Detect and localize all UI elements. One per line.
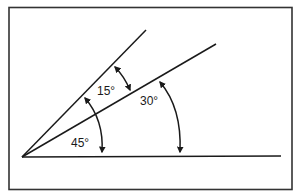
angle-diagram: 15° 30° 45° [0, 0, 300, 196]
ray-30-degree [22, 44, 216, 157]
baseline [22, 156, 281, 157]
arc-arrow-15 [115, 67, 130, 90]
label-15-degree: 15° [97, 84, 115, 98]
label-45-degree: 45° [71, 136, 89, 150]
label-30-degree: 30° [140, 94, 158, 108]
arc-arrow-30 [160, 82, 180, 152]
